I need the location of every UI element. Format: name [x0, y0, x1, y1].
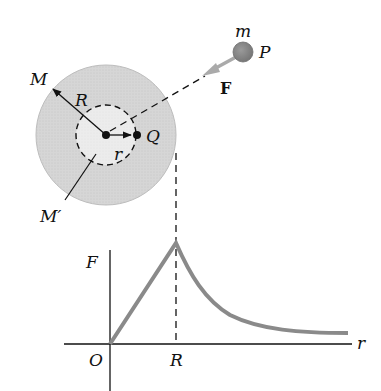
axis-label-r: r [357, 333, 366, 353]
point-Q-dot [133, 131, 141, 139]
axis-label-F: F [85, 252, 99, 272]
label-r-sphere: r [114, 144, 123, 164]
force-curve [110, 243, 348, 344]
tick-label-R: R [169, 350, 183, 370]
force-arrow-F [202, 57, 236, 76]
label-R-sphere: R [74, 90, 88, 110]
label-m: m [235, 21, 251, 41]
label-Q: Q [146, 126, 160, 146]
tick-label-O: O [89, 350, 103, 370]
gravitation-diagram: m P F M R Q r M′ F r O R [0, 0, 381, 391]
label-F-vector: F [220, 79, 232, 98]
center-dot [102, 131, 110, 139]
label-M: M [29, 69, 48, 89]
label-M-prime: M′ [39, 206, 61, 226]
label-P: P [258, 42, 271, 62]
particle-P [233, 42, 253, 62]
